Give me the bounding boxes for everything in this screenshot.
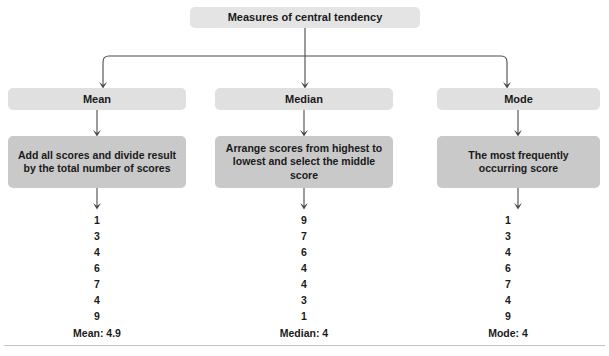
- score-item: 3: [458, 228, 558, 244]
- description-node-mean: Add all scores and divide result by the …: [8, 136, 186, 188]
- arrowhead-mean-scores: [93, 203, 101, 210]
- score-item: 4: [254, 260, 354, 276]
- score-item: 9: [254, 212, 354, 228]
- score-item: 9: [47, 308, 147, 324]
- score-item: 6: [458, 260, 558, 276]
- score-item: 4: [47, 244, 147, 260]
- score-item: 1: [47, 212, 147, 228]
- root-node: Measures of central tendency: [190, 7, 420, 28]
- score-list-mean: 1 3 4 6 7 4 9: [47, 212, 147, 324]
- score-item: 4: [458, 292, 558, 308]
- label-node-mode: Mode: [437, 88, 600, 110]
- arrowhead-mode-scores: [514, 203, 522, 210]
- description-node-median: Arrange scores from highest to lowest an…: [215, 136, 393, 188]
- central-tendency-diagram: Measures of central tendency Mean Add al…: [0, 0, 609, 356]
- score-item: 6: [47, 260, 147, 276]
- arrowhead-median-scores: [300, 203, 308, 210]
- score-item: 3: [47, 228, 147, 244]
- summary-median: Median: 4: [254, 327, 354, 339]
- branch-bar-line: [103, 56, 507, 85]
- description-node-mode: The most frequently occurring score: [437, 136, 600, 188]
- score-item: 4: [458, 244, 558, 260]
- score-list-mode: 1 3 4 6 7 4 9: [458, 212, 558, 324]
- score-list-median: 9 7 6 4 4 3 1: [254, 212, 354, 324]
- label-node-mean: Mean: [8, 88, 186, 110]
- score-item: 4: [47, 292, 147, 308]
- summary-mean: Mean: 4.9: [47, 327, 147, 339]
- score-item: 3: [254, 292, 354, 308]
- bottom-divider: [4, 345, 605, 346]
- score-item: 1: [458, 212, 558, 228]
- score-item: 7: [458, 276, 558, 292]
- score-item: 1: [254, 308, 354, 324]
- label-node-median: Median: [215, 88, 393, 110]
- score-item: 9: [458, 308, 558, 324]
- score-item: 7: [47, 276, 147, 292]
- score-item: 7: [254, 228, 354, 244]
- score-item: 6: [254, 244, 354, 260]
- score-item: 4: [254, 276, 354, 292]
- summary-mode: Mode: 4: [458, 327, 558, 339]
